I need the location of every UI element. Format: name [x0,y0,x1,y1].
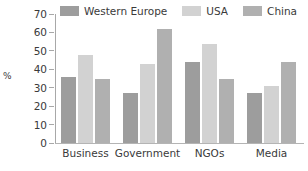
bar-group [247,14,296,143]
y-axis-tick: 60 [0,26,56,38]
y-axis-tick-mark [49,106,54,107]
bar[interactable] [123,93,138,143]
y-axis-ticks: 010203040506070 [0,0,56,171]
legend-item[interactable]: Western Europe [60,5,167,17]
bar-group [61,14,110,143]
bar[interactable] [95,79,110,144]
y-axis-tick-mark [49,143,54,144]
x-axis-line [55,143,304,144]
y-axis-tick: 70 [0,8,56,20]
y-axis-tick-mark [49,32,54,33]
y-axis-tick-label: 0 [5,137,47,149]
y-axis-tick: 30 [0,82,56,94]
y-axis-tick-label: 60 [5,26,47,38]
y-axis-tick-mark [49,14,54,15]
plot-area [56,14,304,143]
legend-label: China [267,5,297,17]
y-axis-tick-label: 40 [5,63,47,75]
y-axis-tick-mark [49,124,54,125]
y-axis-tick-mark [49,69,54,70]
y-axis-tick-label: 30 [5,82,47,94]
legend-item[interactable]: China [243,5,297,17]
legend-label: Western Europe [84,5,167,17]
x-axis-label: Media [233,147,308,160]
y-axis-tick-mark [49,87,54,88]
y-axis-tick-label: 70 [5,8,47,20]
y-axis-tick-label: 10 [5,119,47,131]
bar[interactable] [157,29,172,143]
y-axis-tick-label: 50 [5,45,47,57]
bar[interactable] [140,64,155,143]
legend-swatch-icon [60,6,79,16]
bar[interactable] [202,44,217,144]
legend-item[interactable]: USA [182,5,228,17]
chart-legend: Western EuropeUSAChina [60,5,297,17]
y-axis-tick: 10 [0,119,56,131]
legend-swatch-icon [243,6,262,16]
bar[interactable] [264,86,279,143]
bar-group [123,14,172,143]
legend-swatch-icon [182,6,201,16]
bar[interactable] [78,55,93,143]
bar[interactable] [185,62,200,143]
y-axis-tick-mark [49,50,54,51]
bar[interactable] [247,93,262,143]
bar-group [185,14,234,143]
bar-chart: % 010203040506070 BusinessGovernmentNGOs… [0,0,308,171]
y-axis-tick: 50 [0,45,56,57]
bar[interactable] [281,62,296,143]
y-axis-tick: 40 [0,63,56,75]
legend-label: USA [206,5,228,17]
y-axis-tick-label: 20 [5,100,47,112]
bar[interactable] [61,77,76,143]
y-axis-tick: 20 [0,100,56,112]
bar[interactable] [219,79,234,144]
